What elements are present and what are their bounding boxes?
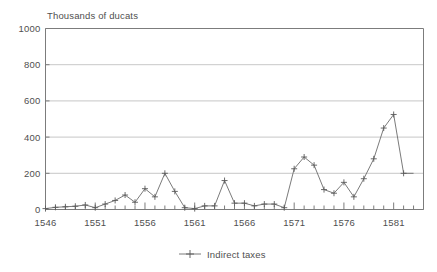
legend-series-label: Indirect taxes (207, 249, 266, 260)
y-axis-tick-labels: 02004006008001000 (19, 23, 41, 215)
grid-lines (46, 65, 424, 174)
plot-frame (46, 29, 424, 210)
x-tick-label: 1546 (35, 217, 57, 228)
x-tick-label: 1581 (383, 217, 405, 228)
y-tick-label: 200 (24, 168, 40, 179)
x-tick-label: 1551 (84, 217, 106, 228)
y-tick-label: 600 (24, 95, 40, 106)
y-tick-label: 400 (24, 132, 40, 143)
y-tick-label: 800 (24, 59, 40, 70)
chart-plot-area: 02004006008001000 1546155115561561156615… (0, 0, 437, 272)
x-tick-label: 1556 (134, 217, 156, 228)
x-tick-label: 1571 (283, 217, 305, 228)
legend-plus-marker-icon (179, 250, 201, 258)
y-axis-ticks (46, 29, 50, 210)
data-series-indirect-taxes (43, 111, 414, 211)
x-axis-tick-labels: 15461551155615611566157115761581 (35, 217, 405, 228)
chart-figure: Thousands of ducats 02004006008001000 15… (0, 0, 437, 272)
y-tick-label: 0 (35, 204, 40, 215)
x-tick-label: 1561 (184, 217, 206, 228)
y-tick-label: 1000 (19, 23, 41, 34)
x-tick-label: 1566 (233, 217, 255, 228)
x-tick-label: 1576 (333, 217, 355, 228)
